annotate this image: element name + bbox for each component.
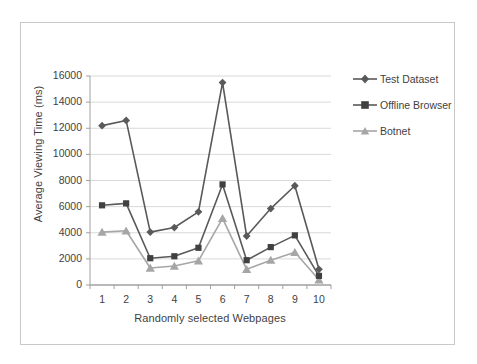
chart-legend: Test Dataset Offline Browser Botnet	[352, 66, 452, 144]
chart-container: 0200040006000800010000120001400016000 12…	[0, 0, 477, 364]
legend-label-test-dataset: Test Dataset	[378, 73, 438, 85]
series-offline-browser	[99, 181, 322, 279]
x-axis-ticks	[90, 285, 331, 289]
x-tick-label: 6	[211, 293, 235, 305]
x-tick-label: 8	[259, 293, 283, 305]
x-tick-label: 2	[114, 293, 138, 305]
legend-marker-triangle-icon	[352, 124, 378, 138]
legend-item-offline-browser[interactable]: Offline Browser	[352, 92, 452, 118]
x-tick-label: 4	[162, 293, 186, 305]
x-tick-label: 1	[90, 293, 114, 305]
legend-label-offline-browser: Offline Browser	[378, 99, 452, 111]
x-tick-label: 10	[307, 293, 331, 305]
legend-label-botnet: Botnet	[378, 125, 410, 137]
x-tick-label: 7	[235, 293, 259, 305]
y-tick-label: 0	[36, 278, 82, 290]
legend-item-test-dataset[interactable]: Test Dataset	[352, 66, 452, 92]
y-axis-ticks	[86, 76, 90, 285]
legend-marker-square-icon	[352, 98, 378, 112]
x-tick-label: 9	[283, 293, 307, 305]
legend-item-botnet[interactable]: Botnet	[352, 118, 452, 144]
series-test-dataset	[98, 79, 323, 274]
series-botnet	[97, 214, 323, 283]
legend-marker-diamond-icon	[352, 72, 378, 86]
x-tick-label: 5	[186, 293, 210, 305]
x-tick-label: 3	[138, 293, 162, 305]
x-axis-title: Randomly selected Webpages	[60, 312, 360, 324]
y-axis-title: Average Viewing Time (ms)	[32, 54, 44, 254]
data-series-layer	[97, 79, 323, 284]
